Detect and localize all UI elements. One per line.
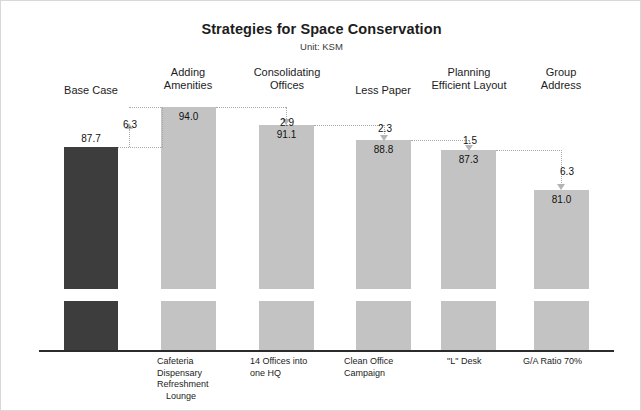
chart-title: Strategies for Space Conservation bbox=[1, 21, 641, 37]
delta-arrow-down-icon bbox=[380, 135, 388, 141]
value-label-base-case: 87.7 bbox=[64, 133, 118, 144]
delta-label-3: 2.3 bbox=[364, 123, 406, 134]
footnote-line: Clean Office bbox=[344, 356, 444, 368]
connector-segment bbox=[216, 107, 286, 108]
footnote-line: Dispensary bbox=[157, 368, 257, 380]
delta-label-5: 6.3 bbox=[546, 166, 588, 177]
connector-segment bbox=[496, 150, 562, 151]
connector-segment bbox=[129, 129, 130, 147]
category-header-group-address: Group Address bbox=[506, 66, 616, 92]
bar-adding-amenities bbox=[161, 107, 216, 289]
chart-container: Strategies for Space Conservation Unit: … bbox=[0, 0, 641, 411]
category-header-line: Adding bbox=[133, 66, 243, 79]
footnote-line: Cafeteria bbox=[157, 356, 257, 368]
footnote-line: one HQ bbox=[250, 368, 350, 380]
category-header-base-case: Base Case bbox=[36, 84, 146, 97]
footnote-line: Campaign bbox=[344, 368, 444, 380]
chart-subtitle: Unit: KSM bbox=[1, 41, 641, 52]
bar-base-case bbox=[64, 147, 118, 289]
bar-less-paper-lower bbox=[356, 301, 411, 350]
category-header-line: Address bbox=[506, 79, 616, 92]
value-label-consolidating-offices: 91.1 bbox=[259, 129, 314, 140]
bar-adding-amenities-lower bbox=[161, 301, 216, 350]
category-header-line: Group bbox=[506, 66, 616, 79]
delta-label-4: 1.5 bbox=[449, 135, 491, 146]
delta-label-1: 6.3 bbox=[109, 119, 151, 130]
bar-planning-efficient-layout-lower bbox=[441, 301, 496, 350]
footnote-adding-amenities: Cafeteria Dispensary Refreshment Lounge bbox=[157, 356, 257, 402]
footnote-line: Refreshment bbox=[157, 379, 257, 391]
connector-segment bbox=[118, 147, 163, 148]
value-label-adding-amenities: 94.0 bbox=[161, 111, 216, 122]
value-label-group-address: 81.0 bbox=[534, 194, 589, 205]
footnote-less-paper: Clean Office Campaign bbox=[344, 356, 444, 379]
axis-baseline bbox=[39, 350, 614, 352]
category-header-line: Base Case bbox=[36, 84, 146, 97]
category-header-line: Consolidating bbox=[228, 66, 346, 79]
delta-label-2: 2.9 bbox=[266, 117, 308, 128]
bar-consolidating-offices bbox=[259, 125, 314, 289]
footnote-line: G/A Ratio 70% bbox=[523, 356, 633, 368]
footnote-line: 14 Offices into bbox=[250, 356, 350, 368]
category-header-line: Amenities bbox=[133, 79, 243, 92]
footnote-group-address: G/A Ratio 70% bbox=[523, 356, 633, 368]
category-header-adding-amenities: Adding Amenities bbox=[133, 66, 243, 92]
delta-arrow-down-icon bbox=[557, 184, 565, 190]
footnote-consolidating-offices: 14 Offices into one HQ bbox=[250, 356, 350, 379]
value-label-less-paper: 88.8 bbox=[356, 144, 411, 155]
bar-less-paper bbox=[356, 140, 411, 289]
bar-planning-efficient-layout bbox=[441, 150, 496, 289]
value-label-planning-efficient-layout: 87.3 bbox=[441, 154, 496, 165]
bar-consolidating-offices-lower bbox=[259, 301, 314, 350]
bar-group-address-lower bbox=[534, 301, 589, 350]
bar-base-case-lower bbox=[64, 301, 118, 350]
connector-segment bbox=[129, 107, 163, 108]
connector-segment bbox=[162, 107, 163, 147]
footnote-line: Lounge bbox=[157, 391, 257, 403]
